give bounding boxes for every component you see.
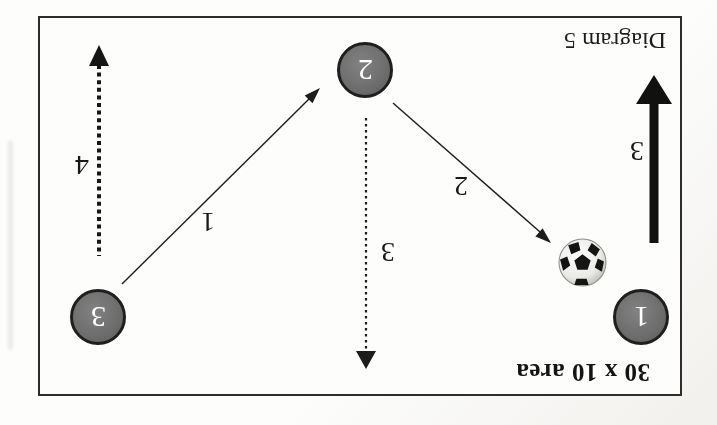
player-marker-2: 2 bbox=[337, 42, 393, 98]
diagram-content: 2 3 1 4 1 2 bbox=[0, 0, 717, 425]
pass-arrow-2 bbox=[393, 103, 551, 243]
soccer-ball-icon bbox=[558, 238, 607, 287]
move-label-3-middle: 3 bbox=[381, 238, 395, 266]
diagram-title: Diagram 5 bbox=[564, 27, 666, 54]
move-label-2: 2 bbox=[454, 172, 468, 200]
player-number: 1 bbox=[634, 302, 649, 332]
pass-arrow-1 bbox=[122, 88, 320, 284]
move-label-3-flank: 3 bbox=[630, 137, 644, 165]
scanned-diagram-page: 2 3 1 4 1 2 bbox=[0, 0, 717, 425]
area-size-label: 30 x 10 area bbox=[516, 358, 650, 386]
player-number: 2 bbox=[358, 55, 373, 85]
move-label-1: 1 bbox=[201, 208, 215, 236]
player-marker-3: 3 bbox=[70, 289, 126, 345]
run-arrow-4-dotted bbox=[89, 45, 109, 256]
run-arrow-3-dotted bbox=[356, 118, 376, 369]
player-marker-1: 1 bbox=[613, 289, 669, 345]
move-label-4: 4 bbox=[75, 151, 89, 179]
player-number: 3 bbox=[91, 302, 106, 332]
